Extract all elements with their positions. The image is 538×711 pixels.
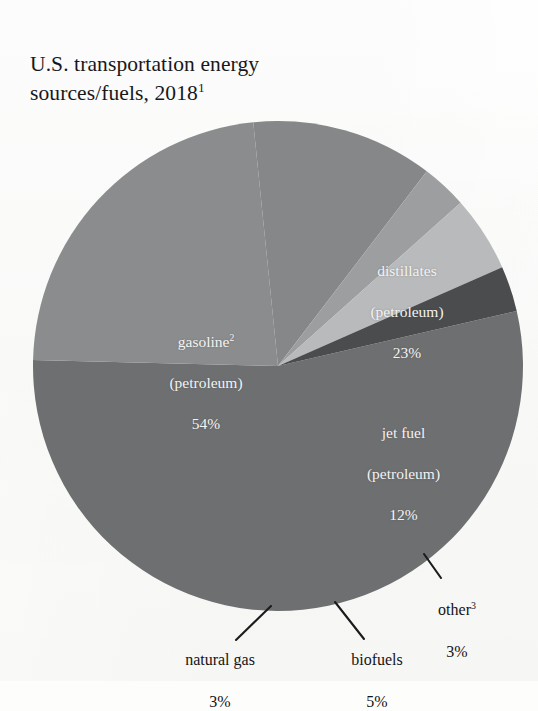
leader-line-other	[424, 554, 441, 578]
slice-label-gasoline-sub: (petroleum)	[169, 374, 242, 391]
slice-label-other-footnote: 3	[471, 600, 476, 611]
slice-label-gasoline-footnote: 2	[229, 331, 234, 342]
slice-label-jet-fuel-name: jet fuel	[382, 424, 425, 441]
slice-label-distillates: distillates (petroleum) 23%	[337, 240, 477, 363]
slice-label-jet-fuel: jet fuel (petroleum) 12%	[336, 402, 471, 525]
slice-label-natural-gas: natural gas 3%	[160, 628, 280, 711]
slice-value-distillates: 23%	[393, 344, 421, 361]
slice-label-jet-fuel-sub: (petroleum)	[367, 465, 440, 482]
slice-label-biofuels-name: biofuels	[351, 651, 403, 668]
slice-label-distillates-name: distillates	[377, 262, 436, 279]
slice-value-natural-gas: 3%	[209, 693, 230, 710]
slice-value-gasoline: 54%	[192, 415, 220, 432]
slice-value-biofuels: 5%	[366, 693, 387, 710]
slice-value-jet-fuel: 12%	[389, 506, 417, 523]
slice-label-gasoline: gasoline2 (petroleum) 54%	[131, 311, 281, 434]
slice-label-natural-gas-name: natural gas	[185, 651, 255, 668]
slice-value-other: 3%	[446, 643, 467, 660]
slice-label-biofuels: biofuels 5%	[327, 628, 427, 711]
slice-label-other-name: other	[438, 601, 471, 618]
slice-label-gasoline-name: gasoline	[178, 333, 230, 350]
slice-label-distillates-sub: (petroleum)	[370, 303, 443, 320]
